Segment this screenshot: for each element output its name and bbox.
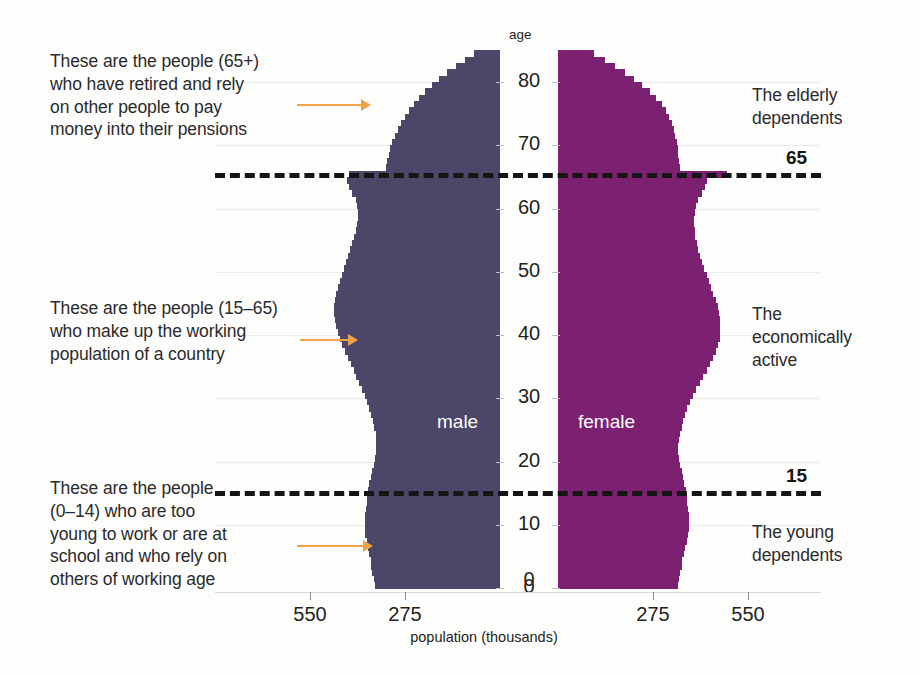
- population-tick-0: [310, 592, 311, 600]
- bar-male-age-3: [371, 563, 500, 570]
- population-pyramid-figure: 01020304050607080 age 5502750275550 popu…: [0, 0, 920, 675]
- population-tick-label-0: 550: [280, 603, 340, 626]
- bar-male-age-36: [348, 354, 500, 361]
- bar-male-age-48: [340, 278, 500, 285]
- bar-female-age-56: [558, 227, 695, 234]
- bar-male-age-1: [374, 575, 500, 582]
- bar-female-age-30: [558, 392, 693, 399]
- bar-male-age-76: [414, 101, 500, 108]
- bar-male-age-12: [366, 506, 500, 513]
- bar-male-age-70: [392, 139, 500, 146]
- bar-female-age-36: [558, 354, 713, 361]
- population-tick-label-zero: 0: [499, 568, 559, 591]
- bar-male-age-84: [474, 50, 500, 57]
- bar-male-age-18: [372, 468, 500, 475]
- divider-label-65: 65: [786, 147, 807, 169]
- age-tick-right-10: [552, 525, 560, 526]
- bar-female-age-32: [558, 379, 700, 386]
- label-the-elderly-dependents: The elderly dependents: [752, 84, 912, 130]
- bar-female-age-4: [558, 556, 682, 563]
- bar-male-age-83: [465, 57, 500, 64]
- bar-male-age-37: [345, 348, 500, 355]
- bar-female-age-59: [558, 209, 695, 216]
- bar-male-age-21: [376, 449, 500, 456]
- population-tick-label-3: 275: [623, 603, 683, 626]
- age-tick-right-80: [552, 82, 560, 83]
- age-tick-label-10: 10: [509, 512, 549, 535]
- population-tick-4: [748, 592, 749, 600]
- bar-male-age-53: [350, 246, 500, 253]
- bar-female-age-5: [558, 550, 684, 557]
- population-tick-1: [405, 592, 406, 600]
- bar-male-age-60: [357, 202, 500, 209]
- bar-male-age-39: [340, 335, 500, 342]
- bar-male-age-82: [456, 63, 500, 70]
- bar-male-age-68: [389, 152, 500, 159]
- age-tick-label-30: 30: [509, 385, 549, 408]
- bar-female-age-51: [558, 259, 702, 266]
- bar-male-age-45: [335, 297, 500, 304]
- age-tick-right-50: [552, 272, 560, 273]
- bar-female-age-46: [558, 291, 713, 298]
- arrow-icon-elderly: [297, 98, 372, 112]
- bar-male-age-35: [351, 360, 500, 367]
- bar-male-age-80: [439, 76, 500, 83]
- bar-female-age-54: [558, 240, 697, 247]
- bar-male-age-79: [432, 82, 500, 89]
- bar-female-age-69: [558, 145, 678, 152]
- bar-male-age-32: [359, 379, 500, 386]
- bar-male-age-20: [375, 455, 500, 462]
- bar-male-age-67: [387, 158, 500, 165]
- bar-male-age-58: [358, 215, 500, 222]
- bar-male-age-47: [338, 284, 500, 291]
- bar-male-age-78: [425, 88, 500, 95]
- age-tick-right-60: [552, 209, 560, 210]
- bar-female-age-11: [558, 512, 689, 519]
- age-axis-caption: age: [509, 27, 532, 42]
- bar-female-age-13: [558, 499, 687, 506]
- bar-male-age-7: [367, 537, 500, 544]
- bar-male-age-71: [395, 133, 500, 140]
- bar-male-age-75: [409, 107, 500, 114]
- bar-male-age-31: [362, 386, 500, 393]
- bar-male-age-28: [369, 405, 500, 412]
- bar-male-age-51: [346, 259, 500, 266]
- bar-female-age-77: [558, 95, 656, 102]
- center-gutter: [500, 30, 558, 592]
- bar-female-age-12: [558, 506, 688, 513]
- age-tick-left-60: [496, 209, 504, 210]
- bar-male-age-41: [336, 322, 500, 329]
- bar-female-age-58: [558, 215, 694, 222]
- bar-female-age-70: [558, 139, 677, 146]
- bar-male-age-33: [356, 373, 500, 380]
- bar-male-age-81: [447, 69, 500, 76]
- bar-male-age-43: [334, 310, 500, 317]
- bar-male-age-42: [335, 316, 500, 323]
- population-tick-label-1: 275: [375, 603, 435, 626]
- age-tick-label-80: 80: [509, 69, 549, 92]
- bar-male-age-4: [371, 556, 500, 563]
- bar-female-age-38: [558, 341, 718, 348]
- bar-female-age-7: [558, 537, 687, 544]
- bar-female-age-39: [558, 335, 720, 342]
- series-label-male: male: [437, 411, 478, 433]
- bar-male-age-44: [334, 303, 500, 310]
- population-tick-3: [653, 592, 654, 600]
- bar-female-age-63: [558, 183, 705, 190]
- bar-female-age-49: [558, 272, 707, 279]
- bar-male-age-30: [365, 392, 500, 399]
- bar-female-age-84: [558, 50, 594, 57]
- bar-male-age-46: [336, 291, 500, 298]
- bar-female-age-83: [558, 57, 605, 64]
- bar-male-age-59: [358, 209, 500, 216]
- bar-female-age-44: [558, 303, 718, 310]
- bar-female-age-81: [558, 69, 625, 76]
- bar-female-age-47: [558, 284, 711, 291]
- x-axis-baseline: [215, 592, 821, 593]
- bar-male-age-19: [374, 462, 500, 469]
- bar-male-age-40: [338, 329, 500, 336]
- bar-male-age-17: [371, 474, 500, 481]
- age-tick-right-30: [552, 398, 560, 399]
- age-tick-right-20: [552, 462, 560, 463]
- bar-male-age-13: [367, 499, 500, 506]
